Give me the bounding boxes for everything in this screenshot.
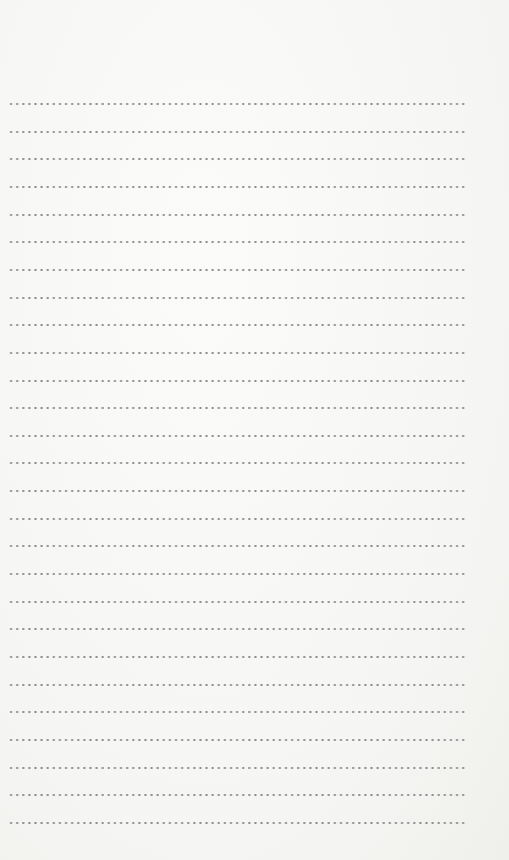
dotted-line <box>8 241 468 243</box>
dotted-line <box>8 462 468 464</box>
dotted-line <box>8 545 468 547</box>
dotted-line <box>8 324 468 326</box>
dotted-line <box>8 407 468 409</box>
dotted-line <box>8 711 468 713</box>
dotted-line <box>8 103 468 105</box>
dotted-line <box>8 269 468 271</box>
dotted-line <box>8 684 468 686</box>
dotted-line <box>8 158 468 160</box>
dotted-line <box>8 601 468 603</box>
dotted-line <box>8 435 468 437</box>
dotted-line <box>8 573 468 575</box>
dotted-line <box>8 767 468 769</box>
dotted-line <box>8 518 468 520</box>
dotted-line <box>8 490 468 492</box>
dotted-line <box>8 352 468 354</box>
dotted-line <box>8 739 468 741</box>
dotted-line <box>8 794 468 796</box>
dotted-line <box>8 822 468 824</box>
dotted-line <box>8 214 468 216</box>
dotted-line <box>8 380 468 382</box>
dotted-line <box>8 297 468 299</box>
dotted-line <box>8 131 468 133</box>
dotted-line <box>8 656 468 658</box>
dotted-line <box>8 186 468 188</box>
paper-sheet <box>0 0 509 860</box>
dotted-line <box>8 628 468 630</box>
